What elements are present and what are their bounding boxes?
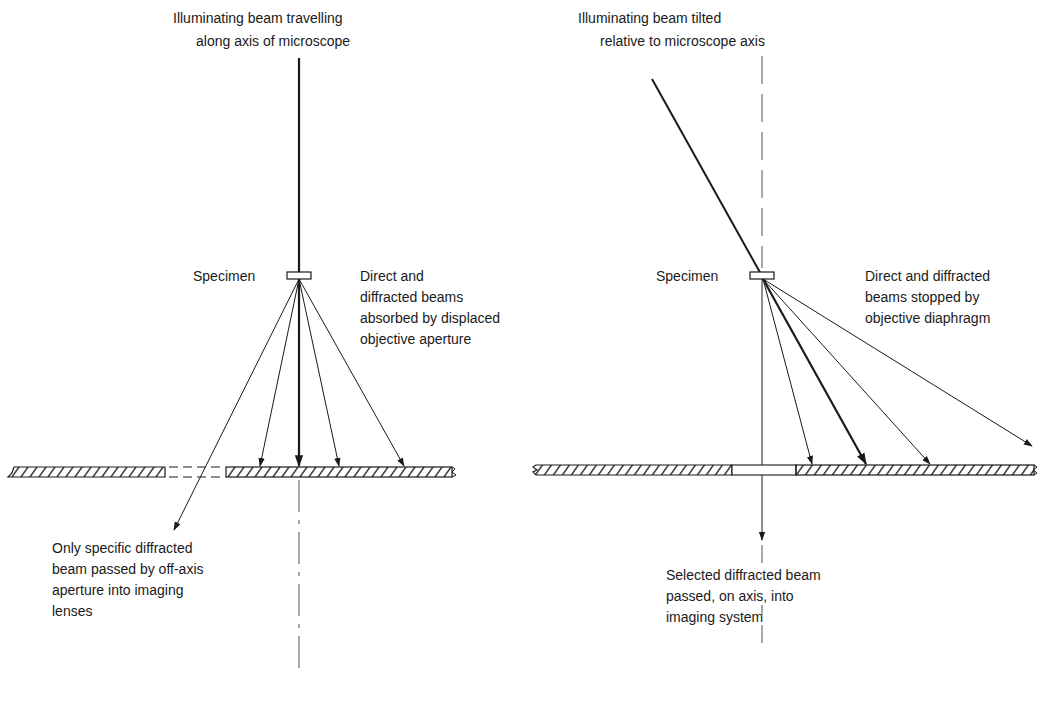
right-stopped-line1: Direct and diffracted [865, 268, 990, 284]
right-specimen-label: Specimen [656, 268, 718, 284]
right-beam-direct [763, 279, 866, 464]
left-beam-diffracted-2 [299, 279, 339, 466]
right-passed-line3: imaging system [666, 609, 763, 625]
left-passed-line1: Only specific diffracted [52, 540, 193, 556]
left-absorbed-line2: diffracted beams [360, 289, 463, 305]
right-beam-diffracted-2 [763, 279, 930, 464]
left-specimen [287, 272, 311, 279]
right-specimen [750, 272, 774, 279]
right-objective-diaphragm [533, 465, 1037, 475]
right-illuminating-beam [652, 79, 762, 276]
right-passed-line2: passed, on axis, into [666, 588, 794, 604]
left-absorbed-line4: objective aperture [360, 331, 472, 347]
left-absorbed-line3: absorbed by displaced [360, 310, 500, 326]
right-passed-line1: Selected diffracted beam [666, 567, 821, 583]
right-title-line2: relative to microscope axis [600, 33, 765, 49]
left-objective-aperture [8, 467, 456, 477]
dark-field-diagram: Illuminating beam travelling along axis … [0, 0, 1046, 720]
left-passed-line4: lenses [52, 603, 92, 619]
right-stopped-line2: beams stopped by [865, 289, 979, 305]
left-beam-passed [174, 279, 299, 530]
right-panel: Illuminating beam tilted relative to mic… [533, 10, 1037, 670]
left-passed-line3: aperture into imaging [52, 582, 184, 598]
right-stopped-line3: objective diaphragm [865, 310, 990, 326]
left-title-line1: Illuminating beam travelling [173, 10, 343, 26]
left-passed-line2: beam passed by off-axis [52, 561, 204, 577]
left-beam-diffracted-1 [260, 279, 299, 466]
left-beam-diffracted-3 [299, 279, 404, 466]
right-title-line1: Illuminating beam tilted [578, 10, 721, 26]
left-title-line2: along axis of microscope [196, 33, 350, 49]
left-absorbed-line1: Direct and [360, 268, 424, 284]
left-panel: Illuminating beam travelling along axis … [8, 10, 500, 670]
left-specimen-label: Specimen [193, 268, 255, 284]
